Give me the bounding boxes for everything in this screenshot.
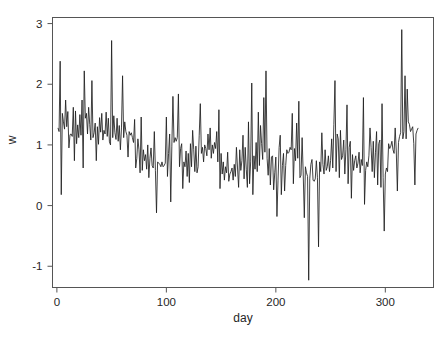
x-axis-title: day xyxy=(233,311,252,325)
time-series-chart: -10123 0100200300 day w xyxy=(0,0,448,341)
x-tick-label: 100 xyxy=(157,296,176,308)
y-axis-title: w xyxy=(5,135,19,145)
figure-container: -10123 0100200300 day w xyxy=(0,0,448,341)
x-tick-label: 200 xyxy=(266,296,285,308)
y-tick-label: 2 xyxy=(36,78,42,90)
plot-frame xyxy=(53,18,434,288)
x-axis-ticks: 0100200300 xyxy=(54,288,395,308)
y-tick-label: -1 xyxy=(32,260,42,272)
y-axis-ticks: -10123 xyxy=(32,18,52,273)
x-tick-label: 300 xyxy=(376,296,395,308)
y-tick-label: 3 xyxy=(36,18,42,30)
y-tick-label: 1 xyxy=(36,139,42,151)
series-line-w xyxy=(58,30,418,281)
y-tick-label: 0 xyxy=(36,200,42,212)
x-tick-label: 0 xyxy=(54,296,60,308)
